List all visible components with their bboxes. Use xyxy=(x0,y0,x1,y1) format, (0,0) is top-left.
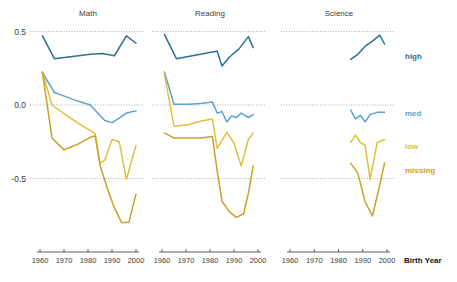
panel-title-math: Math xyxy=(79,9,97,18)
legend-label-low[interactable]: low xyxy=(405,142,419,151)
series-line-reading-missing xyxy=(164,133,253,218)
series-line-science-high xyxy=(351,35,385,59)
series-line-reading-med xyxy=(164,72,253,122)
series-line-reading-high xyxy=(164,34,253,66)
y-tick-label-0.5: 0.5 xyxy=(14,27,26,37)
x-tick-label-reading-1980: 1980 xyxy=(202,256,219,265)
x-tick-label-science-1990: 1990 xyxy=(354,256,371,265)
x-tick-label-reading-1960: 1960 xyxy=(154,256,171,265)
series-line-science-low xyxy=(351,135,385,179)
x-tick-label-science-1970: 1970 xyxy=(306,256,323,265)
x-axis-title: Birth Year xyxy=(404,256,442,265)
x-tick-label-science-1960: 1960 xyxy=(282,256,299,265)
x-tick-label-math-2000: 2000 xyxy=(128,256,145,265)
x-tick-label-math-1960: 1960 xyxy=(32,256,49,265)
series-line-reading-low xyxy=(164,74,253,166)
x-tick-label-reading-2000: 2000 xyxy=(250,256,267,265)
series-line-math-low xyxy=(42,72,136,179)
y-tick-label-0.0: 0.0 xyxy=(14,100,26,110)
legend-label-med[interactable]: med xyxy=(405,109,422,118)
x-tick-label-reading-1990: 1990 xyxy=(226,256,243,265)
panel-title-science: Science xyxy=(325,9,354,18)
x-tick-label-math-1990: 1990 xyxy=(104,256,121,265)
y-tick-label--0.5: -0.5 xyxy=(11,174,26,184)
series-line-math-missing xyxy=(42,72,136,223)
series-line-science-med xyxy=(351,110,385,122)
legend-label-missing[interactable]: missing xyxy=(405,166,435,175)
series-line-math-high xyxy=(42,36,136,59)
chart-figure: 0.50.0-0.5MathReadingScience196019701980… xyxy=(0,0,457,282)
legend-label-high[interactable]: high xyxy=(405,52,422,61)
series-line-science-missing xyxy=(351,163,385,216)
x-tick-label-science-2000: 2000 xyxy=(379,256,396,265)
small-multiples-line-chart: 0.50.0-0.5MathReadingScience196019701980… xyxy=(0,0,457,282)
series-line-math-med xyxy=(42,73,136,123)
x-tick-label-reading-1970: 1970 xyxy=(178,256,195,265)
panel-title-reading: Reading xyxy=(195,9,225,18)
x-tick-label-science-1980: 1980 xyxy=(330,256,347,265)
x-tick-label-math-1980: 1980 xyxy=(80,256,97,265)
x-tick-label-math-1970: 1970 xyxy=(56,256,73,265)
